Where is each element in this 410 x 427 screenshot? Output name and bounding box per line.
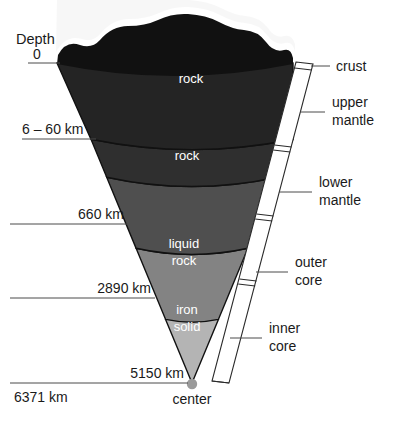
inner-label-liquid-rock-line1: liquid — [169, 236, 199, 251]
depth-label-moho: 6 – 60 km — [22, 121, 83, 137]
inner-label-iron-solid-line2: solid — [174, 319, 201, 334]
side-label-inner-core-line2: core — [269, 338, 296, 354]
side-label-lower-mantle-line1: lower — [319, 174, 353, 190]
inner-label-rock-mantle: rock — [175, 148, 200, 163]
earth-layers-diagram: Depth 0 6 – 60 km 660 km 2890 km 5150 km… — [0, 0, 410, 427]
depth-label-660: 660 km — [78, 206, 124, 222]
inner-label-iron-solid-line1: iron — [176, 302, 198, 317]
depth-label-5150: 5150 km — [130, 365, 184, 381]
side-label-upper-mantle-line1: upper — [332, 94, 368, 110]
depth-label-0: 0 — [33, 46, 41, 62]
depth-label-2890: 2890 km — [97, 280, 151, 296]
depth-axis-label: Depth — [16, 31, 55, 47]
inner-label-rock-crust: rock — [179, 71, 204, 86]
side-label-outer-core-line2: core — [295, 272, 322, 288]
side-label-outer-core-line1: outer — [295, 254, 327, 270]
inner-label-liquid-rock-line2: rock — [172, 253, 197, 268]
side-label-crust: crust — [336, 58, 366, 74]
center-label: center — [173, 391, 212, 407]
side-label-lower-mantle-line2: mantle — [319, 192, 361, 208]
side-label-inner-core-line1: inner — [269, 320, 300, 336]
center-dot — [187, 379, 197, 389]
depth-label-6371: 6371 km — [14, 389, 68, 405]
side-label-upper-mantle-line2: mantle — [332, 112, 374, 128]
